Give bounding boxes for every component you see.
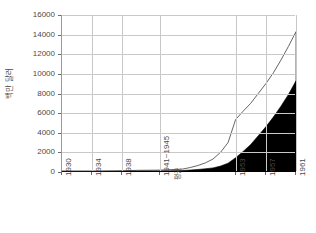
y-tick-label: 8000 xyxy=(0,90,55,98)
x-tick-label: 1930 xyxy=(65,158,73,176)
chart-container: 백만 달러 1600014000120001000080006000400020… xyxy=(0,0,316,233)
y-tick-label: 14000 xyxy=(0,31,55,39)
gridline-horizontal xyxy=(62,152,295,153)
gridline-horizontal xyxy=(62,94,295,95)
x-tick-mark xyxy=(91,172,92,175)
x-tick-label: 1938 xyxy=(125,158,133,176)
gridline-horizontal xyxy=(62,15,295,16)
y-tick-label: 16000 xyxy=(0,11,55,19)
x-tick-mark xyxy=(121,172,122,175)
y-tick-label: 4000 xyxy=(0,129,55,137)
y-tick-label: 2000 xyxy=(0,148,55,156)
gridline-vertical xyxy=(92,15,93,171)
y-tick-label: 12000 xyxy=(0,50,55,58)
gridline-vertical xyxy=(296,15,297,171)
plot-area xyxy=(61,15,295,172)
y-tick-label: 10000 xyxy=(0,70,55,78)
x-tick-mark xyxy=(235,172,236,175)
gridline-vertical xyxy=(160,15,161,171)
gridline-horizontal xyxy=(62,113,295,114)
gridline-vertical xyxy=(122,15,123,171)
gridline-horizontal xyxy=(62,54,295,55)
x-tick-mark xyxy=(61,172,62,175)
x-tick-mark xyxy=(265,172,266,175)
x-tick-label: 1957 xyxy=(269,158,277,176)
x-tick-label: 1941~1945 xyxy=(163,136,171,176)
x-tick-label: 1953 xyxy=(239,158,247,176)
x-tick-label: 1934 xyxy=(95,158,103,176)
x-tick-sublabel: 평균 xyxy=(174,168,182,180)
gridline-vertical xyxy=(236,15,237,171)
y-tick-label: 0 xyxy=(0,168,55,176)
gridline-vertical xyxy=(266,15,267,171)
x-tick-label: 1961 xyxy=(299,158,307,176)
gridline-horizontal xyxy=(62,133,295,134)
gridline-horizontal xyxy=(62,74,295,75)
gridline-horizontal xyxy=(62,35,295,36)
x-tick-mark xyxy=(159,172,160,175)
x-tick-mark xyxy=(295,172,296,175)
y-tick-label: 6000 xyxy=(0,109,55,117)
